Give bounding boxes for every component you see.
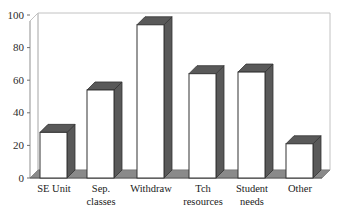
y-tick-label: 0 xyxy=(19,172,25,184)
y-tick-60: 60 xyxy=(13,74,30,86)
cat-label-line: classes xyxy=(86,196,115,207)
bar-side-face xyxy=(164,17,172,178)
y-tick-label: 40 xyxy=(13,106,25,118)
x-axis-labels: SE Unit Sep. classes Withdraw Tch resour… xyxy=(37,183,312,207)
bar-front-face xyxy=(238,72,265,178)
y-tick-label: 100 xyxy=(8,9,25,21)
bar-student-needs[interactable] xyxy=(238,64,273,178)
bar-front-face xyxy=(137,25,164,178)
bar-front-face xyxy=(286,144,313,178)
bar-chart: 0 20 40 60 80 100 xyxy=(0,0,338,219)
cat-label-tch-resources: Tch resources xyxy=(183,183,223,207)
floor-plane xyxy=(30,170,330,178)
y-tick-20: 20 xyxy=(13,139,30,151)
bar-side-face xyxy=(114,82,122,178)
y-tick-80: 80 xyxy=(13,41,30,53)
bar-front-face xyxy=(87,90,114,178)
cat-label-line: Other xyxy=(288,183,312,194)
y-tick-label: 80 xyxy=(13,41,25,53)
y-tick-0: 0 xyxy=(19,172,31,184)
cat-label-line: Student xyxy=(236,183,268,194)
y-axis: 0 20 40 60 80 100 xyxy=(8,9,31,184)
cat-label-other: Other xyxy=(288,183,312,194)
bar-front-face xyxy=(40,132,67,178)
y-tick-label: 20 xyxy=(13,139,25,151)
bar-side-face xyxy=(216,66,224,178)
cat-label-line: SE Unit xyxy=(37,183,71,194)
cat-label-line: Tch xyxy=(195,183,211,194)
bar-side-face xyxy=(265,64,273,178)
cat-label-student-needs: Student needs xyxy=(236,183,268,207)
chart-canvas: 0 20 40 60 80 100 xyxy=(0,0,338,219)
depth-edge-top xyxy=(30,13,38,21)
cat-label-line: Sep. xyxy=(92,183,110,194)
bar-tch-resources[interactable] xyxy=(189,66,224,178)
bar-front-face xyxy=(189,74,216,178)
bar-se-unit[interactable] xyxy=(40,124,75,178)
bar-other[interactable] xyxy=(286,136,321,178)
cat-label-withdraw: Withdraw xyxy=(130,183,172,194)
cat-label-se-unit: SE Unit xyxy=(37,183,71,194)
bar-side-face xyxy=(67,124,75,178)
y-tick-40: 40 xyxy=(13,106,30,118)
y-tick-100: 100 xyxy=(8,9,31,21)
bar-sep-classes[interactable] xyxy=(87,82,122,178)
bar-withdraw[interactable] xyxy=(137,17,172,178)
y-tick-label: 60 xyxy=(13,74,25,86)
cat-label-line: needs xyxy=(240,196,264,207)
cat-label-line: resources xyxy=(183,196,223,207)
cat-label-line: Withdraw xyxy=(130,183,172,194)
cat-label-sep-classes: Sep. classes xyxy=(86,183,115,207)
